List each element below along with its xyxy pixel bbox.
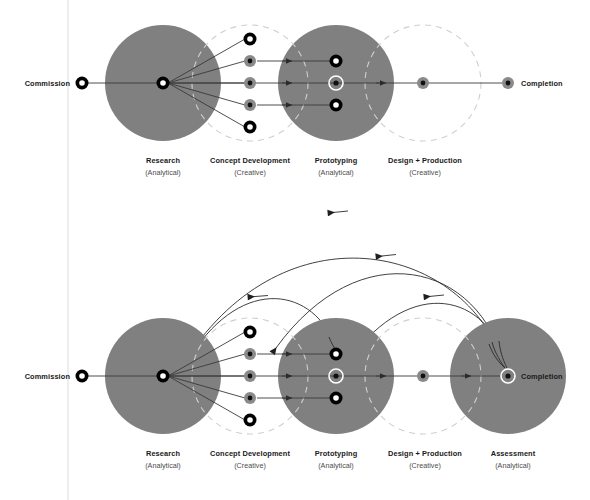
node-core [333, 373, 338, 378]
design-process-diagram: Commission Completion Research (Analytic… [0, 0, 590, 500]
phase-mode-research: (Analytical) [145, 461, 181, 470]
phase-mode-design-production: (Creative) [409, 461, 441, 470]
node-core [247, 36, 253, 42]
phase-mode-concept-development: (Creative) [234, 461, 266, 470]
node-core [79, 373, 85, 379]
arc-arrowhead [334, 211, 348, 212]
node-core [505, 373, 510, 378]
arc-arrowhead [254, 296, 268, 297]
phase-label-prototyping: Prototyping [315, 449, 358, 458]
node-group-concept-development [244, 33, 257, 134]
arc-arrowhead [382, 255, 396, 257]
node-core [333, 58, 339, 64]
phase-label-prototyping: Prototyping [315, 156, 358, 165]
arc-arrowhead [430, 295, 444, 296]
phase-label-research: Research [146, 156, 180, 165]
phase-mode-design-production: (Creative) [409, 168, 441, 177]
phase-label-assessment: Assessment [491, 449, 536, 458]
phase-label-design-production: Design + Production [388, 156, 462, 165]
completion-label: Completion [521, 372, 563, 381]
node-core [248, 374, 253, 379]
commission-label: Commission [25, 79, 71, 88]
phase-mode-prototyping: (Analytical) [318, 461, 354, 470]
node-core [248, 81, 253, 86]
phase-label-research: Research [146, 449, 180, 458]
node-core [506, 81, 511, 86]
node-core [333, 102, 339, 108]
node-core [248, 396, 253, 401]
node-core [248, 352, 253, 357]
phase-label-concept-development: Concept Development [210, 156, 290, 165]
node-core [247, 329, 253, 335]
phase-mode-assessment: (Analytical) [495, 461, 531, 470]
node-core [247, 417, 253, 423]
completion-label: Completion [521, 79, 563, 88]
node-core [160, 373, 166, 379]
node-core [333, 80, 338, 85]
node-core [333, 395, 339, 401]
node-core [248, 59, 253, 64]
node-group-concept-development [244, 326, 257, 427]
node-core [248, 103, 253, 108]
diagram-iterative-process: Commission Completion Research (Analytic… [25, 211, 566, 470]
phase-mode-prototyping: (Analytical) [318, 168, 354, 177]
node-core [160, 80, 166, 86]
node-core [421, 374, 426, 379]
phase-label-concept-development: Concept Development [210, 449, 290, 458]
node-core [247, 124, 253, 130]
commission-label: Commission [25, 372, 71, 381]
node-core [79, 80, 85, 86]
phase-label-design-production: Design + Production [388, 449, 462, 458]
node-core [333, 351, 339, 357]
diagram-canvas: Commission Completion Research (Analytic… [0, 0, 590, 500]
phase-mode-concept-development: (Creative) [234, 168, 266, 177]
diagram-linear-process: Commission Completion Research (Analytic… [25, 25, 563, 177]
node-core [421, 81, 426, 86]
phase-mode-research: (Analytical) [145, 168, 181, 177]
